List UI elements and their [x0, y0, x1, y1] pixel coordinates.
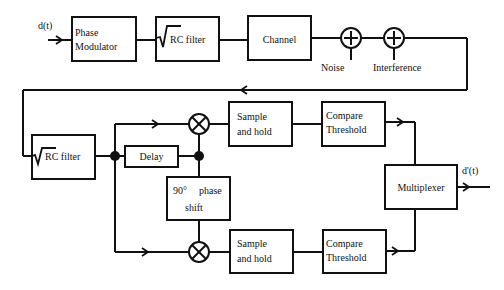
noise-label: Noise: [321, 62, 344, 74]
output-signal-label: d'(t): [462, 165, 478, 177]
compare-bottom-label-2: Threshold: [326, 252, 367, 264]
delay-label: Delay: [125, 151, 178, 163]
compare-bottom-label-1: Compare: [326, 238, 363, 250]
sample-hold-bottom-box: [230, 230, 293, 273]
phase-modulator-label-2: Modulator: [75, 41, 117, 53]
phase-modulator-box: [72, 17, 136, 61]
channel-label: Channel: [248, 34, 311, 46]
junction-dot-left: [110, 151, 120, 161]
interference-label: Interference: [373, 62, 421, 74]
sample-hold-top-box: [229, 102, 292, 146]
junction-dot-right: [194, 151, 204, 161]
input-signal-label: d(t): [38, 20, 52, 32]
compare-top-label-1: Compare: [326, 110, 363, 122]
sample-hold-top-label-2: and hold: [237, 126, 272, 138]
phase-shift-label-2: phase: [199, 185, 222, 197]
sample-hold-bottom-label-2: and hold: [237, 253, 272, 265]
phase-shift-label-3: shift: [185, 202, 203, 214]
compare-top-label-2: Threshold: [326, 124, 367, 136]
sample-hold-top-label-1: Sample: [237, 111, 267, 123]
phase-shift-label-1: 90°: [173, 185, 187, 197]
phase-modulator-label-1: Phase: [75, 27, 98, 39]
tx-rc-filter-label: RC filter: [170, 34, 205, 46]
multiplexer-label: Multiplexer: [385, 182, 457, 194]
sample-hold-bottom-label-1: Sample: [237, 238, 267, 250]
rx-rc-filter-label: RC filter: [45, 151, 80, 163]
